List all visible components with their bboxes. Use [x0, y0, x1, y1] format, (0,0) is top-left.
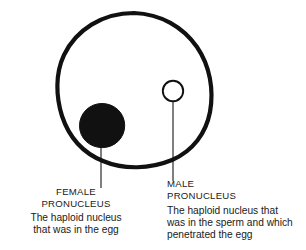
female-pronucleus-description: The haploid nucleus that was in the egg: [6, 212, 146, 236]
figure-canvas: [0, 0, 306, 195]
female-pronucleus-title: FEMALE PRONUCLEUS: [6, 186, 146, 209]
male-pronucleus: [163, 81, 183, 101]
female-pronucleus-caption: FEMALE PRONUCLEUS The haploid nucleus th…: [6, 186, 146, 236]
egg-cell-outline: [57, 13, 211, 167]
male-pronucleus-caption: MALE PRONUCLEUS The haploid nucleus that…: [167, 178, 303, 240]
pronuclei-diagram: FEMALE PRONUCLEUS The haploid nucleus th…: [0, 0, 306, 250]
male-pronucleus-description: The haploid nucleus that was in the sper…: [167, 205, 303, 240]
female-pronucleus: [79, 104, 124, 148]
male-pronucleus-title: MALE PRONUCLEUS: [167, 178, 303, 201]
